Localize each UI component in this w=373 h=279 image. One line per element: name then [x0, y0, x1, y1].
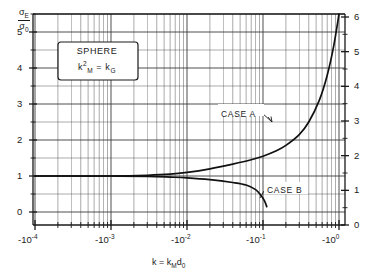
case-a-label: CASE A [221, 110, 256, 119]
y-left-tick-2: 2 [17, 135, 22, 145]
x-tick-exponent: -4 [32, 233, 38, 240]
x-tick-base: -10 [95, 234, 109, 245]
y-left-tick-5: 5 [17, 27, 22, 37]
x-tick-base: -10 [246, 234, 260, 245]
y-right-tick-0: 0 [354, 220, 359, 230]
x-tick-exponent: 0 [336, 233, 340, 240]
x-tick-exponent: -2 [185, 233, 191, 240]
y-left-tick-3: 3 [17, 99, 22, 109]
y-axis-title-numerator: σE [18, 8, 30, 21]
y-right-tick-2: 2 [354, 151, 359, 161]
x-tick-base: -10 [18, 234, 32, 245]
x-tick-2: -10-2 [171, 234, 191, 245]
x-tick-exponent: -3 [109, 233, 115, 240]
y-left-tick-1: 1 [17, 171, 22, 181]
y-right-tick-4: 4 [354, 81, 359, 91]
x-tick-base: -10 [322, 234, 336, 245]
y-right-tick-6: 6 [354, 12, 359, 22]
case-b-label: CASE B [267, 186, 302, 195]
y-right-tick-1: 1 [354, 185, 359, 195]
x-tick-3: -10-1 [246, 234, 266, 245]
box-line-equation: k2M = kG [63, 60, 131, 74]
x-axis-title: k = kMd0 [152, 258, 185, 269]
sphere-annotation-box-text: SPHERE k2M = kG [63, 46, 131, 74]
y-right-tick-3: 3 [354, 116, 359, 126]
x-tick-0: -10-4 [18, 234, 38, 245]
y-left-tick-0: 0 [17, 207, 22, 217]
x-tick-4: -100 [322, 234, 339, 245]
y-right-tick-5: 5 [354, 47, 359, 57]
y-left-tick-4: 4 [17, 63, 22, 73]
x-tick-base: -10 [171, 234, 185, 245]
x-tick-exponent: -1 [260, 233, 266, 240]
box-line-sphere: SPHERE [63, 46, 131, 56]
x-tick-1: -10-3 [95, 234, 115, 245]
